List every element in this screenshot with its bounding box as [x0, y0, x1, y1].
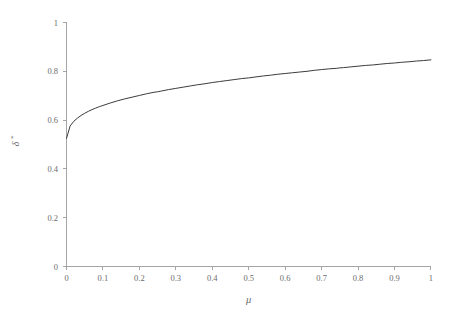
- y-axis-title-base: δ: [10, 140, 21, 146]
- y-axis-title: δ *: [9, 135, 21, 146]
- x-axis-title: μ: [245, 294, 251, 305]
- x-tick-label: 0.3: [170, 273, 181, 283]
- x-tick-marks: [67, 267, 431, 271]
- data-curve: [67, 60, 431, 139]
- x-tick-label: 0.4: [207, 273, 218, 283]
- y-tick-labels: 0 0.2 0.4 0.6 0.8 1: [47, 18, 58, 272]
- x-tick-label: 0.8: [353, 273, 364, 283]
- x-tick-label: 0.5: [243, 273, 254, 283]
- y-tick-marks: [63, 23, 67, 267]
- x-tick-labels: 0 0.1 0.2 0.3 0.4 0.5 0.6 0.7 0.8 0.9 1: [64, 273, 433, 283]
- plot-area: 0 0.2 0.4 0.6 0.8 1 0 0.1 0.2 0.3 0.4 0.…: [0, 0, 451, 323]
- x-tick-label: 0.9: [389, 273, 400, 283]
- y-tick-label: 0: [54, 262, 58, 272]
- x-tick-label: 1: [429, 273, 433, 283]
- chart-figure: 0 0.2 0.4 0.6 0.8 1 0 0.1 0.2 0.3 0.4 0.…: [0, 0, 451, 323]
- y-tick-label: 0.2: [47, 213, 58, 223]
- x-tick-label: 0.7: [316, 273, 327, 283]
- y-tick-label: 0.4: [47, 164, 58, 174]
- y-tick-label: 0.8: [47, 66, 58, 76]
- y-tick-label: 1: [54, 18, 58, 28]
- y-axis-title-superscript: *: [9, 135, 17, 139]
- y-tick-label: 0.6: [47, 115, 58, 125]
- x-tick-label: 0.1: [98, 273, 109, 283]
- x-tick-label: 0.6: [280, 273, 291, 283]
- x-tick-label: 0.2: [134, 273, 145, 283]
- x-tick-label: 0: [64, 273, 68, 283]
